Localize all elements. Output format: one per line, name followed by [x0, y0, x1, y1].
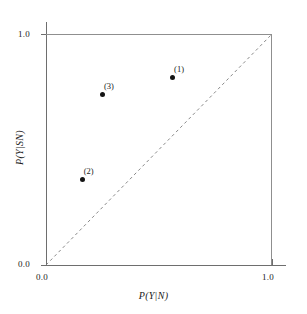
y-axis-tick-label-max: 1.0 [18, 29, 30, 39]
y-axis-tick-min [41, 265, 47, 266]
x-axis-title: P(Y|N) [0, 290, 307, 301]
y-axis-title: P(Y|SN) [14, 93, 25, 203]
chance-diagonal-line [46, 34, 272, 265]
roc-scatter-figure: 1.0 0.0 0.0 1.0 P(Y|N) P(Y|SN) (1) (2) (… [0, 0, 307, 314]
x-axis-tick-label-min: 0.0 [36, 272, 48, 282]
y-axis-tick-label-min: 0.0 [18, 259, 30, 269]
data-point[interactable]: (2) [80, 177, 85, 182]
data-point-label: (3) [104, 81, 114, 91]
plot-area: (1) (2) (3) [46, 34, 272, 265]
x-axis-tick-label-max: 1.0 [262, 272, 274, 282]
data-point-label: (2) [84, 166, 94, 176]
data-point[interactable]: (3) [100, 92, 105, 97]
x-axis-line [46, 265, 286, 266]
x-axis-tick-max [272, 259, 273, 265]
data-point-label: (1) [174, 64, 184, 74]
